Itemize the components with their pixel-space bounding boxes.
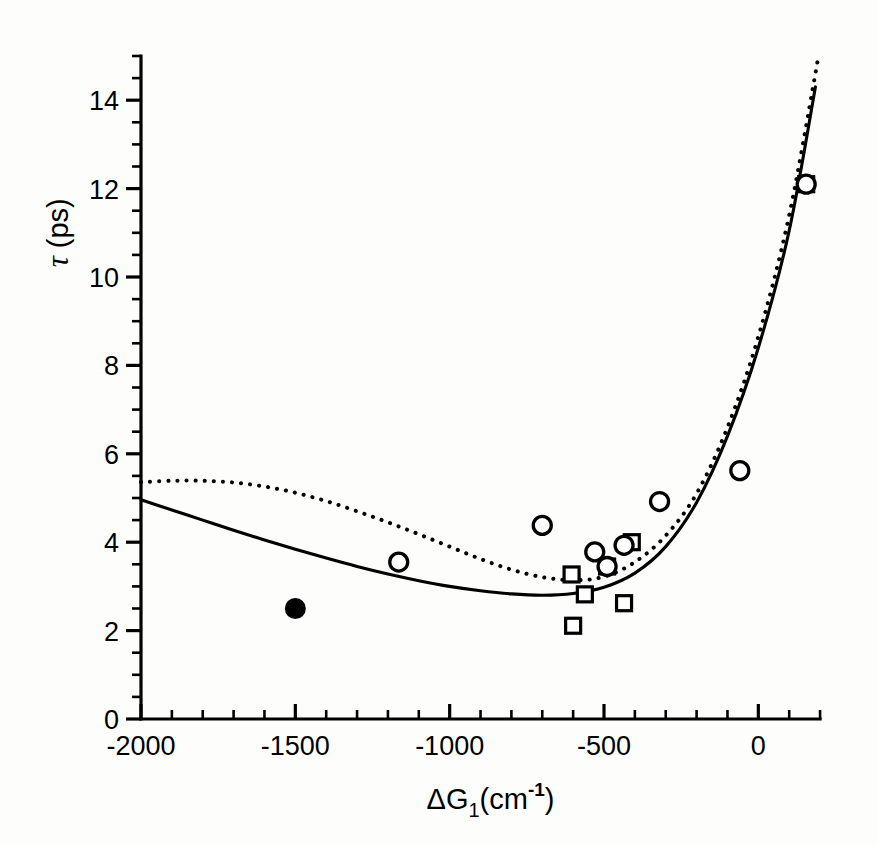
x-tick-label: -1000 — [415, 731, 484, 761]
data-point-filled-circle — [286, 599, 305, 618]
data-point-open-square — [577, 587, 592, 602]
data-markers — [286, 175, 815, 633]
figure-container: 02468101214-2000-1500-1000-5000ΔG1(cm-1)… — [0, 0, 877, 845]
y-tick-label: 8 — [104, 351, 119, 381]
data-point-open-square — [566, 618, 581, 633]
data-point-open-circle — [533, 516, 551, 534]
x-tick-label: -1500 — [261, 731, 330, 761]
data-point-open-circle — [731, 462, 749, 480]
y-tick-label: 10 — [89, 263, 119, 293]
plot-axes — [126, 56, 820, 719]
solid-fit-curve — [141, 87, 815, 595]
data-point-open-circle — [598, 558, 616, 576]
scatter-plot: 02468101214-2000-1500-1000-5000ΔG1(cm-1)… — [0, 0, 877, 845]
data-point-open-circle — [615, 536, 633, 554]
x-tick-label: -500 — [577, 731, 631, 761]
axis-labels: 02468101214-2000-1500-1000-5000ΔG1(cm-1)… — [40, 86, 766, 821]
x-tick-label: -2000 — [106, 731, 175, 761]
data-point-open-circle — [797, 175, 815, 193]
data-point-open-square — [617, 596, 632, 611]
y-axis-title: τ (ps) — [40, 198, 75, 267]
data-point-open-circle — [651, 493, 669, 511]
x-axis-title: ΔG1(cm-1) — [427, 779, 555, 821]
fit-curves — [141, 56, 819, 595]
y-tick-label: 2 — [104, 617, 119, 647]
data-point-open-circle — [390, 553, 408, 571]
data-point-open-square — [564, 567, 579, 582]
x-tick-label: 0 — [751, 731, 766, 761]
y-tick-label: 14 — [89, 86, 119, 116]
dotted-fit-curve — [141, 56, 819, 580]
y-tick-label: 12 — [89, 175, 119, 205]
y-tick-label: 6 — [104, 440, 119, 470]
y-tick-label: 4 — [104, 528, 119, 558]
